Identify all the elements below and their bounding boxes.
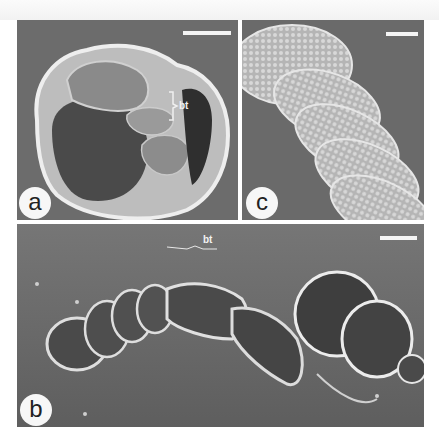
- scale-bar-b: [380, 236, 417, 240]
- panel-label-a: a: [19, 187, 51, 219]
- scale-bar-a: [183, 31, 231, 35]
- annotation-bt-a: bt: [179, 100, 188, 111]
- specimen-b-image: [17, 224, 424, 427]
- page-top-margin: [0, 0, 439, 20]
- micrograph-panel-b: bt b: [17, 224, 424, 427]
- micrograph-panel-a: bt a: [17, 20, 238, 220]
- micrograph-panel-c: c: [242, 20, 424, 220]
- panel-label-b: b: [20, 394, 52, 426]
- annotation-bt-b: bt: [203, 234, 212, 245]
- panel-label-c: c: [246, 187, 278, 219]
- specimen-a-image: [17, 20, 238, 220]
- scale-bar-c: [386, 32, 418, 36]
